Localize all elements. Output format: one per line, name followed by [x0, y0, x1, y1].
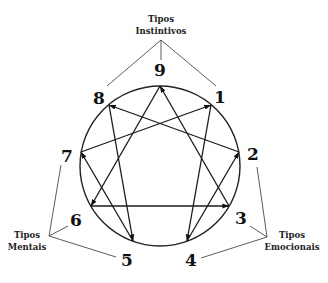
bracket-instintivos-8: [107, 40, 161, 86]
enneagram-diagram: 912345678 TiposInstintivosTiposMentaisTi…: [0, 0, 328, 283]
type-number-6: 6: [70, 210, 82, 230]
type-numbers: 912345678: [61, 60, 259, 270]
group-label-emocionais-line2: Emocionais: [265, 242, 320, 252]
type-number-1: 1: [214, 87, 226, 107]
bracket-emocionais-2: [257, 167, 267, 237]
type-number-8: 8: [93, 88, 105, 108]
bracket-mentais-7: [49, 165, 61, 236]
bracket-emocionais-4: [201, 237, 267, 258]
group-labels: TiposInstintivosTiposMentaisTiposEmocion…: [8, 14, 320, 252]
type-number-4: 4: [185, 250, 197, 270]
arrow-lines: [81, 86, 239, 241]
group-label-emocionais-line1: Tipos: [279, 230, 305, 240]
group-label-instintivos-line1: Tipos: [148, 14, 174, 24]
type-number-5: 5: [121, 250, 133, 270]
group-label-mentais-line1: Tipos: [14, 230, 40, 240]
group-label-mentais-line2: Mentais: [8, 242, 47, 252]
type-number-9: 9: [154, 60, 166, 80]
enneagram-circle: [80, 86, 240, 246]
type-number-2: 2: [247, 144, 259, 164]
bracket-instintivos-1: [161, 40, 216, 86]
bracket-mentais-5: [49, 236, 116, 257]
type-number-3: 3: [235, 208, 247, 228]
type-number-7: 7: [61, 146, 73, 166]
bracket-mentais-6: [49, 226, 68, 236]
group-label-instintivos-line2: Instintivos: [136, 26, 187, 36]
bracket-emocionais-3: [250, 226, 267, 237]
